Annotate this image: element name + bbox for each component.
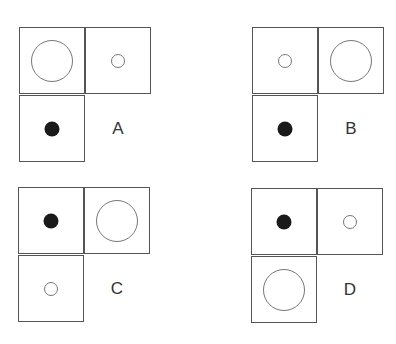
label-cell: A	[85, 95, 151, 162]
label-cell: D	[317, 256, 383, 323]
filled-dot-icon	[45, 121, 60, 136]
cell-bottom-left	[251, 256, 317, 323]
option-panel-d[interactable]: D	[251, 188, 385, 324]
cell-top-left	[252, 27, 318, 94]
cell-bottom-left	[252, 95, 318, 162]
small-circle-icon	[111, 54, 125, 68]
cell-top-left	[251, 188, 317, 255]
cell-top-right	[85, 27, 151, 94]
cell-bottom-left	[19, 95, 85, 162]
option-label: B	[345, 119, 356, 139]
option-panel-a[interactable]: A	[19, 27, 153, 163]
option-panel-c[interactable]: C	[18, 187, 152, 323]
label-cell: B	[318, 95, 384, 162]
large-circle-icon	[31, 40, 73, 82]
cell-top-right	[84, 187, 150, 254]
small-circle-icon	[343, 215, 357, 229]
filled-dot-icon	[44, 213, 59, 228]
small-circle-icon	[44, 282, 58, 296]
filled-dot-icon	[277, 214, 292, 229]
cell-top-left	[18, 187, 84, 254]
cell-top-left	[19, 27, 85, 94]
option-label: A	[112, 119, 123, 139]
small-circle-icon	[278, 54, 292, 68]
option-panel-b[interactable]: B	[252, 27, 386, 163]
cell-top-right	[318, 27, 384, 94]
label-cell: C	[84, 255, 150, 322]
large-circle-icon	[96, 200, 138, 242]
large-circle-icon	[330, 40, 372, 82]
option-label: D	[344, 280, 356, 300]
filled-dot-icon	[278, 121, 293, 136]
cell-bottom-left	[18, 255, 84, 322]
option-label: C	[111, 279, 123, 299]
cell-top-right	[317, 188, 383, 255]
large-circle-icon	[263, 269, 305, 311]
